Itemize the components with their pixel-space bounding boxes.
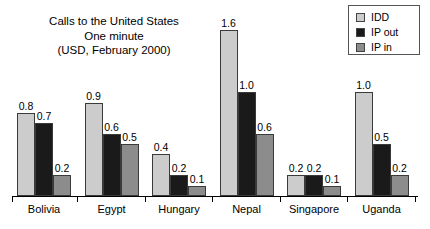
bar-group: 1.61.00.6: [220, 0, 274, 196]
bar-group-bars: 1.61.00.6: [220, 0, 274, 196]
bar-group-bars: 1.00.50.2: [355, 0, 409, 196]
bar-slot: 0.2: [53, 0, 71, 196]
bar-group-bars: 0.80.70.2: [17, 0, 71, 196]
x-axis-tick: [280, 196, 281, 202]
bar[interactable]: [85, 103, 103, 196]
bar-value-label: 0.4: [154, 142, 169, 153]
bar-value-label: 0.1: [325, 174, 340, 185]
bar-group-bars: 0.90.60.5: [85, 0, 139, 196]
bar-group-bars: 0.40.20.1: [152, 0, 206, 196]
bar[interactable]: [323, 186, 341, 196]
bar-slot: 0.8: [17, 0, 35, 196]
bar-value-label: 0.2: [172, 163, 187, 174]
bar-value-label: 0.5: [374, 132, 389, 143]
bar[interactable]: [103, 134, 121, 196]
bar-group: 0.40.20.1: [152, 0, 206, 196]
bar-value-label: 0.2: [289, 163, 304, 174]
bar[interactable]: [238, 92, 256, 196]
bar-slot: 0.1: [323, 0, 341, 196]
bar-value-label: 0.5: [122, 132, 137, 143]
bar-slot: 0.9: [85, 0, 103, 196]
bar-value-label: 1.0: [356, 80, 371, 91]
bar-value-label: 0.7: [37, 111, 52, 122]
bar[interactable]: [53, 175, 71, 196]
bar-slot: 0.2: [287, 0, 305, 196]
bar-chart: Calls to the United States One minute (U…: [0, 0, 430, 229]
bar[interactable]: [170, 175, 188, 196]
bar-slot: 0.5: [373, 0, 391, 196]
x-axis-category-label: Egypt: [75, 203, 149, 216]
bar-value-label: 0.6: [257, 122, 272, 133]
x-axis-tick: [77, 196, 78, 202]
bar-value-label: 1.0: [239, 80, 254, 91]
bar-slot: 1.6: [220, 0, 238, 196]
x-axis-category-label: Singapore: [277, 203, 351, 216]
bar-value-label: 0.2: [307, 163, 322, 174]
bar-slot: 1.0: [355, 0, 373, 196]
bar-slot: 0.1: [188, 0, 206, 196]
plot-area: 0.80.70.20.90.60.50.40.20.11.61.00.60.20…: [0, 0, 430, 196]
bar-slot: 0.6: [256, 0, 274, 196]
x-axis-tick: [212, 196, 213, 202]
bar[interactable]: [256, 134, 274, 196]
bar[interactable]: [121, 144, 139, 196]
bar-value-label: 0.6: [104, 122, 119, 133]
bar-group: 0.90.60.5: [85, 0, 139, 196]
x-axis-tick: [415, 196, 416, 202]
bar[interactable]: [152, 154, 170, 196]
x-axis-tick: [347, 196, 348, 202]
bar-group-bars: 0.20.20.1: [287, 0, 341, 196]
x-axis-category-label: Bolivia: [7, 203, 81, 216]
bar-group: 0.80.70.2: [17, 0, 71, 196]
bar[interactable]: [287, 175, 305, 196]
bar[interactable]: [391, 175, 409, 196]
bar-slot: 0.7: [35, 0, 53, 196]
bar[interactable]: [373, 144, 391, 196]
bar-value-label: 1.6: [221, 18, 236, 29]
x-axis-line: [12, 196, 418, 197]
x-axis-tick: [12, 196, 13, 202]
bar[interactable]: [17, 113, 35, 196]
bar-value-label: 0.1: [190, 174, 205, 185]
bar-group: 0.20.20.1: [287, 0, 341, 196]
bar-slot: 0.5: [121, 0, 139, 196]
bar-value-label: 0.9: [86, 91, 101, 102]
bar-slot: 0.2: [170, 0, 188, 196]
bar[interactable]: [35, 123, 53, 196]
bar[interactable]: [355, 92, 373, 196]
bar-slot: 0.4: [152, 0, 170, 196]
bar-value-label: 0.2: [55, 163, 70, 174]
x-axis-category-label: Hungary: [142, 203, 216, 216]
bar[interactable]: [305, 175, 323, 196]
x-axis-tick: [145, 196, 146, 202]
bar-slot: 0.2: [305, 0, 323, 196]
bar[interactable]: [220, 30, 238, 196]
x-axis-category-label: Uganda: [345, 203, 419, 216]
bar-value-label: 0.8: [19, 101, 34, 112]
bar-slot: 1.0: [238, 0, 256, 196]
x-axis-category-label: Nepal: [210, 203, 284, 216]
bar-group: 1.00.50.2: [355, 0, 409, 196]
bar-value-label: 0.2: [392, 163, 407, 174]
bar-slot: 0.6: [103, 0, 121, 196]
bar-slot: 0.2: [391, 0, 409, 196]
bar[interactable]: [188, 186, 206, 196]
